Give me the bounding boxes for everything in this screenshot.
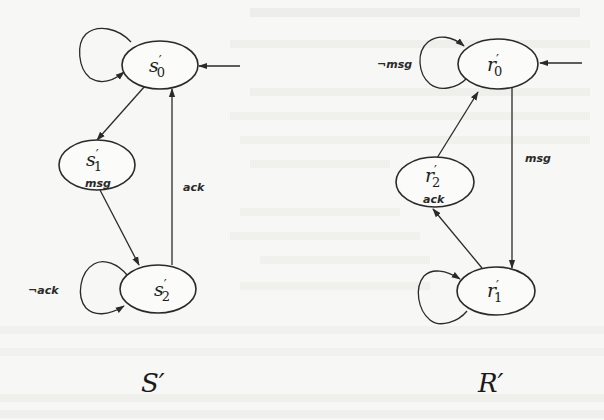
- edge-label-ack: ack: [183, 181, 205, 194]
- state-output-ack: ack: [423, 193, 445, 206]
- state-output-msg: msg: [85, 177, 111, 190]
- automaton-title-s: S′: [141, 368, 165, 398]
- state-s0: s′0: [122, 41, 198, 89]
- diagram-svg: ack ¬ack s′0 s′1 msg s′2 S′ ¬msg msg: [0, 0, 604, 420]
- self-loop-s0: [80, 28, 131, 81]
- diagram-canvas: ack ¬ack s′0 s′1 msg s′2 S′ ¬msg msg: [0, 0, 604, 420]
- edge-r1-r2: [433, 209, 482, 268]
- edge-label-not-msg: ¬msg: [377, 58, 412, 71]
- automaton-title-r: R′: [477, 368, 504, 398]
- edge-label-not-ack: ¬ack: [28, 284, 59, 297]
- state-s1: s′1 msg: [59, 140, 135, 190]
- state-s2: s′2: [120, 265, 196, 313]
- edge-s0-s1: [97, 86, 145, 140]
- edge-label-msg: msg: [525, 152, 551, 165]
- state-r2: r′2 ack: [396, 157, 474, 207]
- state-r1: r′1: [457, 267, 535, 315]
- state-r0: r′0: [458, 39, 538, 89]
- edge-r2-r0: [437, 92, 478, 158]
- automaton-s-prime: ack ¬ack s′0 s′1 msg s′2 S′: [28, 28, 240, 398]
- edge-s1-s2: [100, 190, 139, 265]
